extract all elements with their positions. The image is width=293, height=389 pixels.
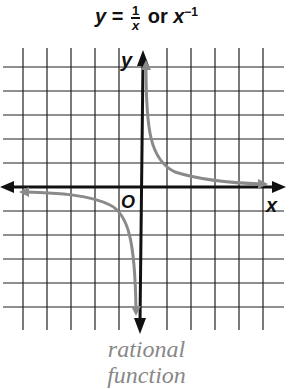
x-axis-right-arrow-icon	[272, 181, 286, 193]
caption-line2: function	[0, 362, 293, 389]
x-axis-left-arrow-icon	[0, 181, 14, 193]
origin-label: O	[121, 192, 135, 212]
x-axis-label: x	[265, 194, 278, 216]
y-axis-down-arrow-icon	[134, 318, 146, 334]
caption-line1: rational	[0, 336, 293, 363]
curve-positive-branch	[146, 66, 262, 184]
y-axis-label: y	[120, 49, 133, 71]
